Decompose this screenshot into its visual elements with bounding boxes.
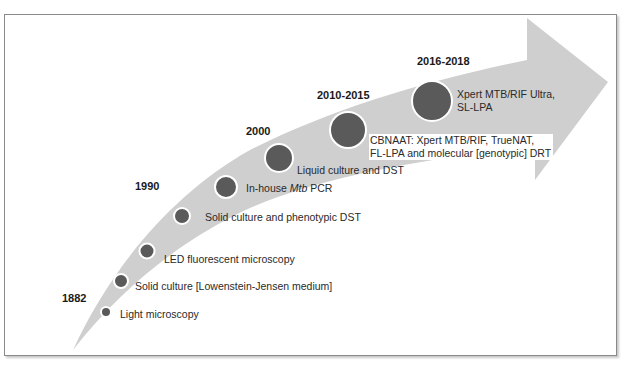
milestone-label-pcr: In-house Mtb PCR: [246, 182, 332, 195]
milestone-dot-light-microscopy: [101, 307, 111, 317]
milestone-label-led: LED fluorescent microscopy: [164, 253, 295, 266]
year-label-1990: 1990: [135, 180, 159, 192]
milestone-dot-cbnaat: [330, 112, 366, 148]
xpert-ultra-line-2: SL-LPA: [457, 101, 555, 114]
milestone-label-xpert-ultra: Xpert MTB/RIF Ultra, SL-LPA: [457, 88, 555, 114]
pcr-label-pre: In-house: [246, 182, 290, 194]
milestone-label-solid-culture-lj: Solid culture [Lowenstein-Jensen medium]: [135, 280, 332, 293]
milestone-label-solid-culture-dst: Solid culture and phenotypic DST: [205, 211, 361, 224]
cbnaat-line-1: CBNAAT: Xpert MTB/RIF, TrueNAT,: [370, 134, 551, 147]
milestone-dot-solid-culture-dst: [174, 208, 190, 224]
milestone-dot-liquid-culture: [265, 144, 293, 172]
milestone-dot-xpert-ultra: [412, 81, 452, 121]
milestone-label-light-microscopy: Light microscopy: [120, 308, 199, 321]
year-label-2016-2018: 2016-2018: [417, 55, 470, 67]
year-label-2010-2015: 2010-2015: [317, 89, 370, 101]
milestone-label-liquid-culture: Liquid culture and DST: [297, 164, 404, 177]
milestone-label-cbnaat: CBNAAT: Xpert MTB/RIF, TrueNAT, FL-LPA a…: [369, 134, 553, 160]
pcr-label-italic: Mtb: [290, 182, 308, 194]
xpert-ultra-line-1: Xpert MTB/RIF Ultra,: [457, 88, 555, 101]
milestone-dot-solid-culture-lj: [114, 274, 128, 288]
milestone-dot-pcr: [215, 176, 237, 198]
year-label-1882: 1882: [62, 292, 86, 304]
milestone-dot-led: [140, 244, 155, 259]
pcr-label-post: PCR: [307, 182, 332, 194]
year-label-2000: 2000: [246, 125, 270, 137]
cbnaat-line-2: FL-LPA and molecular [genotypic] DRT: [370, 147, 551, 160]
